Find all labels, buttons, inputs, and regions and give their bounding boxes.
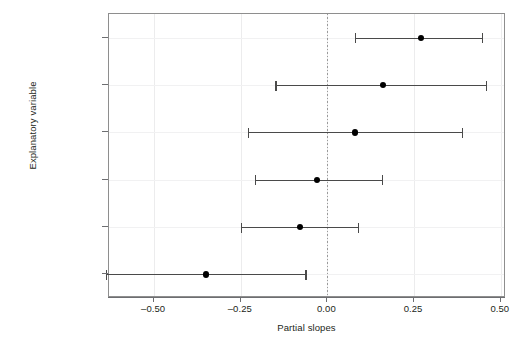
zero-reference-line: [327, 14, 328, 296]
confidence-interval: [255, 180, 383, 181]
y-tick-label-wrap: Population1970: [0, 179, 108, 180]
vertical-gridline: [501, 14, 502, 296]
dot-and-interval-plot: Explanatory variable Partial slopes Manu…: [0, 0, 522, 342]
x-axis-tick-label: 0.50: [490, 303, 509, 314]
confidence-interval: [275, 85, 487, 86]
x-axis-tick: [500, 297, 501, 302]
vertical-gridline: [154, 14, 155, 296]
interval-cap-upper: [382, 175, 383, 185]
confidence-interval: [248, 132, 463, 133]
x-axis-title: Partial slopes: [108, 322, 505, 333]
plot-area: [108, 13, 505, 297]
x-axis-tick-label: –0.50: [141, 303, 165, 314]
y-axis-title: Explanatory variable: [27, 46, 38, 206]
estimate-point: [297, 224, 303, 230]
interval-cap-lower: [255, 175, 256, 185]
interval-cap-upper: [482, 33, 483, 43]
interval-cap-upper: [462, 128, 463, 138]
estimate-point: [380, 82, 386, 88]
y-tick-label-wrap: AvgRainyDays: [0, 131, 108, 132]
vertical-gridline: [241, 14, 242, 296]
interval-cap-lower: [275, 81, 276, 91]
estimate-point: [314, 177, 320, 183]
interval-cap-upper: [358, 223, 359, 233]
x-axis-tick: [326, 297, 327, 302]
interval-cap-upper: [305, 270, 306, 280]
interval-cap-lower: [106, 270, 107, 280]
estimate-point: [418, 35, 424, 41]
interval-cap-lower: [355, 33, 356, 43]
interval-cap-lower: [248, 128, 249, 138]
estimate-point: [203, 271, 209, 277]
x-axis-tick-label: –0.25: [228, 303, 252, 314]
y-tick-label-wrap: ManufEnter: [0, 37, 108, 38]
confidence-interval: [106, 274, 307, 275]
y-tick-label-wrap: Temp: [0, 273, 108, 274]
x-axis-tick-label: 0.00: [317, 303, 336, 314]
vertical-gridline: [414, 14, 415, 296]
x-axis-tick: [153, 297, 154, 302]
estimate-point: [352, 129, 358, 135]
x-axis-tick: [413, 297, 414, 302]
interval-cap-upper: [486, 81, 487, 91]
y-tick-label-wrap: AvgPrecip: [0, 84, 108, 85]
x-axis-tick-label: 0.25: [404, 303, 423, 314]
confidence-interval: [355, 38, 483, 39]
x-axis-tick: [240, 297, 241, 302]
interval-cap-lower: [241, 223, 242, 233]
y-tick-label-wrap: AvgWindSpeed: [0, 226, 108, 227]
x-axis-line: [108, 297, 505, 298]
confidence-interval: [241, 227, 359, 228]
